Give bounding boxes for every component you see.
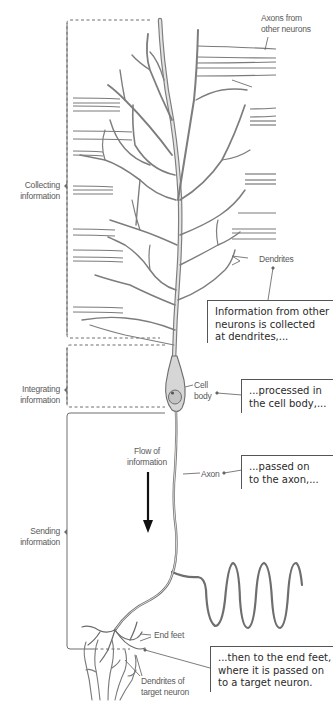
callout-passed: ...passed on to the axon,... — [241, 455, 333, 489]
label-line: Cell — [194, 380, 212, 391]
callout-line: Information from other — [215, 306, 333, 319]
stage-label-line: information — [0, 395, 60, 406]
stage-label-line: Collecting — [0, 180, 60, 191]
label-cell-body: Cell body — [194, 380, 212, 401]
stage-label-line: information — [0, 537, 60, 548]
label-dendrites-of-target-neuron: Dendrites of target neuron — [141, 676, 189, 697]
callout-line: to a target neuron. — [218, 677, 333, 690]
callout-line: at dendrites,... — [215, 331, 333, 344]
callout-processed: ...processed in the cell body,... — [241, 379, 333, 413]
stage-label-sending: Sending information — [0, 526, 60, 547]
label-flow-of-information: Flow of information — [122, 446, 172, 467]
neuron-diagram — [0, 0, 333, 707]
label-line: body — [194, 391, 212, 402]
stage-brackets — [64, 20, 165, 649]
stage-label-line: Sending — [0, 526, 60, 537]
flow-arrow — [143, 472, 153, 533]
label-line: Axons from — [261, 13, 311, 24]
callout-line: ...passed on — [249, 461, 333, 474]
callout-line: ...processed in — [249, 385, 333, 398]
label-dendrites: Dendrites — [259, 254, 294, 265]
callout-line: the cell body,... — [249, 398, 333, 411]
callout-end-feet: ...then to the end feet, where it is pas… — [210, 646, 333, 692]
label-line: other neurons — [261, 24, 311, 35]
label-axon: Axon — [201, 469, 220, 480]
label-line: Dendrites of — [141, 676, 189, 687]
label-axons-from-other-neurons: Axons from other neurons — [261, 13, 311, 34]
label-line: Flow of — [122, 446, 172, 457]
callout-line: ...then to the end feet, — [218, 652, 333, 665]
label-line: information — [122, 457, 172, 468]
callout-line: where it is passed on — [218, 665, 333, 678]
stage-label-integrating: Integrating information — [0, 384, 60, 405]
label-end-feet: End feet — [154, 630, 184, 641]
label-line: target neuron — [141, 687, 189, 698]
callout-line: neurons is collected — [215, 319, 333, 332]
stage-label-line: information — [0, 191, 60, 202]
stage-label-line: Integrating — [0, 384, 60, 395]
stage-label-collecting: Collecting information — [0, 180, 60, 201]
callout-collected: Information from other neurons is collec… — [207, 300, 333, 343]
cell-body — [166, 356, 186, 412]
leader-lines — [125, 37, 274, 676]
callout-line: to the axon,... — [249, 474, 333, 487]
axon — [115, 412, 302, 630]
incoming-axons — [73, 46, 276, 313]
